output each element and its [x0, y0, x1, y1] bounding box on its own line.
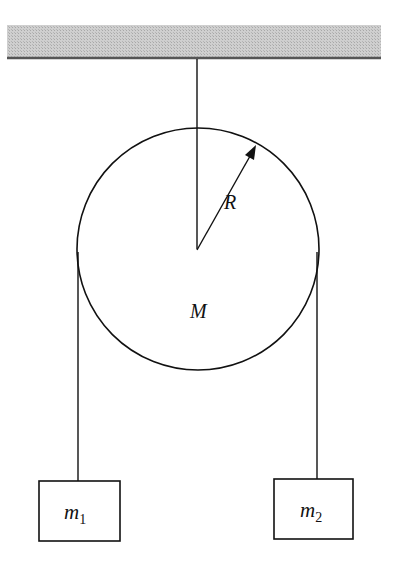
ceiling [7, 25, 381, 58]
mass-box-m2: m2 [274, 479, 353, 539]
pulley-mass-label: M [189, 300, 208, 322]
mass-subscript-1: 1 [79, 512, 86, 527]
mass-label-m2: m [300, 498, 315, 522]
pulley-diagram: R M m1 m2 [0, 0, 394, 578]
mass-box-m1: m1 [39, 481, 120, 541]
radius-label: R [223, 191, 236, 213]
mass-label-m1: m [64, 500, 79, 524]
mass-subscript-2: 2 [315, 510, 322, 525]
